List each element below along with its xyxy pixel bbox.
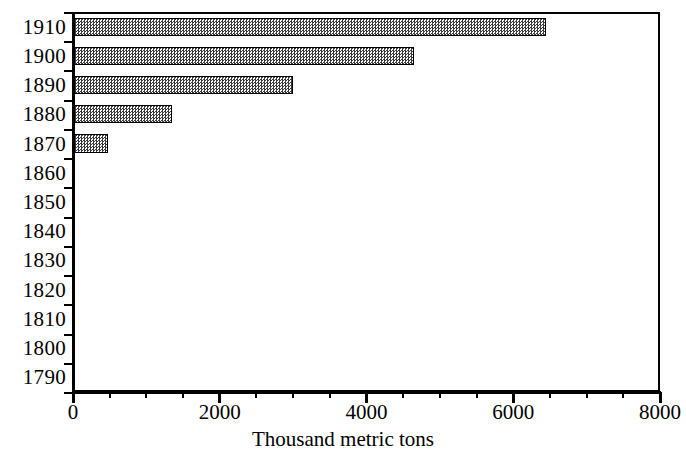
bar-band	[73, 193, 660, 211]
y-tick-label-1900: 1900	[6, 46, 66, 67]
x-tick-label-6000: 6000	[468, 401, 558, 423]
y-tick-label-1880: 1880	[6, 104, 66, 125]
x-tick	[109, 392, 111, 398]
bar-band	[73, 105, 660, 123]
y-tick	[64, 304, 73, 306]
bar-1900	[73, 47, 414, 65]
y-axis-line	[72, 12, 75, 393]
x-tick	[329, 392, 331, 398]
y-tick	[64, 12, 73, 14]
x-axis-title: Thousand metric tons	[0, 427, 686, 451]
bar-band	[73, 339, 660, 357]
bar-band	[73, 251, 660, 269]
bar-band	[73, 134, 660, 152]
y-tick-label-1840: 1840	[6, 221, 66, 242]
x-tick	[476, 392, 478, 398]
x-tick	[402, 392, 404, 398]
y-tick-label-1790: 1790	[6, 367, 66, 388]
x-tick	[145, 392, 147, 398]
bar-1880	[73, 105, 172, 123]
y-tick-label-1820: 1820	[6, 280, 66, 301]
bar-band	[73, 18, 660, 36]
bar-1910	[73, 18, 546, 36]
y-tick-label-1800: 1800	[6, 338, 66, 359]
bar-band	[73, 76, 660, 94]
x-tick-label-0: 0	[28, 401, 118, 423]
bar-band	[73, 310, 660, 328]
x-tick	[255, 392, 257, 398]
y-tick-label-1870: 1870	[6, 134, 66, 155]
bar-band	[73, 222, 660, 240]
y-tick-label-1830: 1830	[6, 250, 66, 271]
x-tick-label-2000: 2000	[175, 401, 265, 423]
y-tick-label-1860: 1860	[6, 163, 66, 184]
bar-1870	[73, 134, 108, 152]
y-tick-label-1890: 1890	[6, 75, 66, 96]
y-tick	[64, 275, 73, 277]
x-tick	[586, 392, 588, 398]
bar-band	[73, 164, 660, 182]
x-tick	[549, 392, 551, 398]
y-tick	[64, 158, 73, 160]
x-tick-label-4000: 4000	[322, 401, 412, 423]
y-tick-label-1810: 1810	[6, 309, 66, 330]
y-tick	[64, 129, 73, 131]
bar-chart: 1910190018901880187018601850184018301820…	[0, 0, 686, 455]
bars-layer	[73, 12, 660, 392]
y-tick-label-1850: 1850	[6, 192, 66, 213]
bar-band	[73, 281, 660, 299]
x-tick	[182, 392, 184, 398]
bar-band	[73, 368, 660, 386]
x-tick	[292, 392, 294, 398]
bar-band	[73, 47, 660, 65]
bar-1890	[73, 76, 293, 94]
x-tick	[439, 392, 441, 398]
x-tick-label-8000: 8000	[615, 401, 686, 423]
y-tick	[64, 41, 73, 43]
y-tick-label-1910: 1910	[6, 17, 66, 38]
x-tick	[622, 392, 624, 398]
